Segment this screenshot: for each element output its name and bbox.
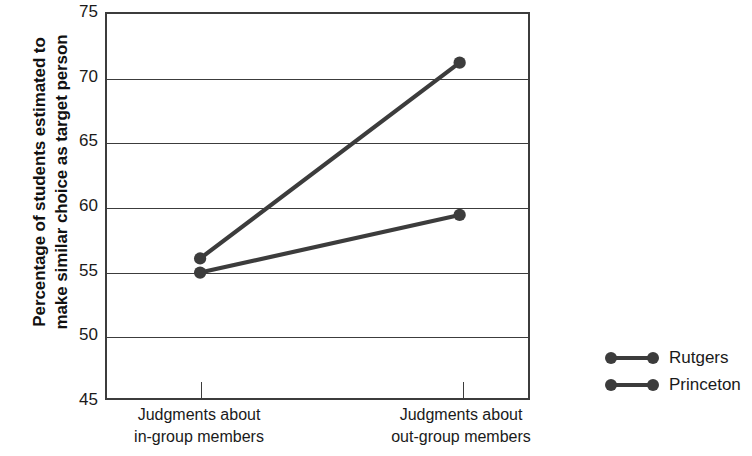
x-axis-category-label-line: out-group members [346,426,576,448]
x-axis-category-label-line: Judgments about [84,404,314,426]
x-axis-category-label: Judgments aboutin-group members [84,404,314,447]
legend: RutgersPrinceton [604,344,752,398]
legend-item-label: Rutgers [669,348,729,368]
gridline [107,208,528,209]
legend-item-princeton[interactable]: Princeton [604,371,752,398]
series-line [200,215,460,273]
series-line [200,63,460,259]
y-axis-tick-label: 75 [62,2,98,22]
legend-marker-icon [604,351,660,365]
gridline [107,273,528,274]
x-axis-tick-mark [463,382,464,398]
data-point-marker [454,209,466,221]
y-axis-title-line-1: Percentage of students estimated to [29,37,51,326]
y-axis-tick-label: 55 [62,261,98,281]
gridline [107,337,528,338]
x-axis-category-label: Judgments aboutout-group members [346,404,576,447]
gridline [107,79,528,80]
x-axis-tick-labels: Judgments aboutin-group membersJudgments… [105,404,530,454]
series-princeton [194,209,466,279]
plot-area [105,12,530,400]
series-rutgers [194,57,466,265]
y-axis-tick-label: 50 [62,325,98,345]
legend-marker-icon [604,378,660,392]
legend-item-rutgers[interactable]: Rutgers [604,344,752,371]
y-axis-tick-label: 60 [62,196,98,216]
x-axis-category-label-line: in-group members [84,426,314,448]
x-axis-tick-mark [201,382,202,398]
y-axis-tick-label: 70 [62,67,98,87]
series-layer [107,14,528,398]
line-chart-figure: Percentage of students estimated to make… [0,0,752,456]
data-point-marker [454,57,466,69]
x-axis-category-label-line: Judgments about [346,404,576,426]
legend-item-label: Princeton [669,375,741,395]
data-point-marker [194,252,206,264]
y-axis-tick-label: 65 [62,131,98,151]
gridline [107,143,528,144]
y-axis-tick-labels: 75706560555045 [58,0,98,456]
